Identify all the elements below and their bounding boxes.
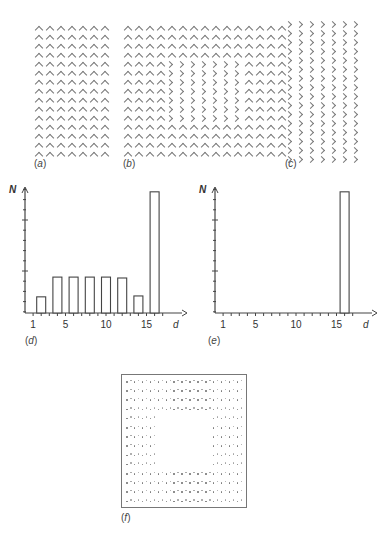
chevron-up-icon [266, 87, 277, 96]
map-dot [209, 481, 211, 483]
chevron-up-icon [145, 105, 156, 114]
map-dot [154, 453, 156, 455]
chevron-up-icon [167, 24, 178, 33]
map-dot [134, 491, 136, 493]
chevron-up-icon [189, 51, 200, 60]
chevron-up-icon [145, 96, 156, 105]
chevron-up-icon [56, 96, 67, 105]
map-dot [233, 398, 235, 400]
chevron-up-icon [255, 96, 266, 105]
map-dot [177, 380, 179, 382]
texture-row [34, 141, 111, 150]
chevron-up-icon [178, 24, 189, 33]
chevron-right-icon [233, 69, 244, 78]
map-dot [130, 398, 132, 400]
map-dot [142, 390, 144, 392]
map-dot [241, 472, 243, 474]
map-dot [130, 453, 132, 455]
map-dot [126, 445, 128, 447]
map-dot [221, 491, 223, 493]
map-dot [177, 472, 179, 474]
map-dot [197, 491, 199, 493]
chevron-up-icon [45, 24, 56, 33]
chevron-up-icon [45, 51, 56, 60]
map-dot [213, 427, 215, 429]
map-dot [233, 380, 235, 382]
chevron-up-icon [211, 123, 222, 132]
texture-row [286, 74, 363, 83]
map-dot [213, 491, 215, 493]
chevron-up-icon [123, 114, 134, 123]
texture-row [34, 114, 111, 123]
map-dot [142, 381, 144, 383]
map-dot [241, 416, 243, 418]
histogram-bar [69, 277, 78, 313]
histogram-bar [118, 278, 127, 313]
texture-row [286, 137, 363, 146]
map-dot [173, 409, 175, 411]
map-dot [193, 389, 195, 391]
map-dot [201, 380, 203, 382]
texture-row [286, 47, 363, 56]
chevron-up-icon [244, 51, 255, 60]
histogram-d: 151015Nd [0, 180, 190, 334]
chevron-up-icon [100, 69, 111, 78]
chevron-up-icon [222, 141, 233, 150]
histogram-bar [134, 296, 143, 313]
map-dot [225, 398, 227, 400]
chevron-up-icon [255, 42, 266, 51]
chevron-up-icon [67, 69, 78, 78]
map-dot [150, 501, 152, 503]
map-dot [221, 427, 223, 429]
chevron-up-icon [89, 78, 100, 87]
map-dot [233, 472, 235, 474]
map-dot [229, 491, 231, 493]
chevron-up-icon [145, 114, 156, 123]
map-dot [150, 464, 152, 466]
caption-f: (f) [121, 512, 130, 523]
chevron-right-icon [233, 87, 244, 96]
map-dot [225, 444, 227, 446]
texture-row [123, 105, 288, 114]
chevron-up-icon [100, 42, 111, 51]
chevron-right-icon [233, 78, 244, 87]
map-dot [225, 416, 227, 418]
chevron-right-icon [352, 101, 363, 110]
map-dot [170, 407, 172, 409]
map-dot [146, 435, 148, 437]
map-dot [130, 462, 132, 464]
map-dot [154, 416, 156, 418]
map-dot [189, 399, 191, 401]
chevron-up-icon [244, 132, 255, 141]
chevron-right-icon [233, 105, 244, 114]
chevron-up-icon [255, 87, 266, 96]
map-dot [138, 398, 140, 400]
map-dot [197, 381, 199, 383]
y-axis-label: N [9, 184, 17, 195]
chevron-up-icon [134, 60, 145, 69]
chevron-up-icon [56, 87, 67, 96]
chevron-up-icon [167, 33, 178, 42]
x-tick-label: 15 [141, 319, 153, 330]
map-dot [217, 481, 219, 483]
map-dot [166, 409, 168, 411]
chevron-up-icon [89, 42, 100, 51]
map-dot [189, 482, 191, 484]
chevron-up-icon [167, 123, 178, 132]
chevron-up-icon [200, 150, 211, 159]
map-dot [221, 473, 223, 475]
chevron-up-icon [255, 141, 266, 150]
map-dot [205, 491, 207, 493]
chevron-up-icon [123, 123, 134, 132]
chevron-up-icon [189, 24, 200, 33]
chevron-up-icon [211, 42, 222, 51]
map-dot [162, 380, 164, 382]
map-dot [209, 380, 211, 382]
map-dot [229, 399, 231, 401]
map-dot [173, 399, 175, 401]
texture-row [123, 150, 288, 159]
map-dot [150, 409, 152, 411]
map-dot [150, 445, 152, 447]
map-dot [130, 444, 132, 446]
chevron-up-icon [244, 123, 255, 132]
